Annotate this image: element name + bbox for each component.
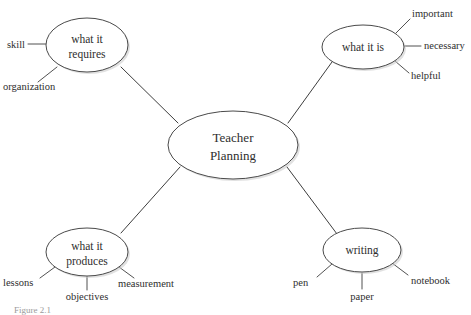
leaf-label-measurement: measurement	[118, 278, 174, 289]
node-label-what-it-is-line-1: what it is	[342, 41, 385, 53]
node-outline-what-it-produces	[46, 228, 128, 276]
leaf-label-necessary: necessary	[424, 40, 466, 51]
connector-center-to-what-it-produces	[121, 167, 180, 233]
connector-center-to-what-it-is	[288, 62, 332, 123]
node-what-it-requires[interactable]: what it requires	[46, 18, 130, 74]
connector-leaf-lessons	[40, 267, 55, 278]
leaf-label-paper: paper	[350, 291, 374, 302]
node-outline-center	[168, 111, 298, 179]
connector-center-to-what-it-requires	[121, 67, 178, 123]
leaf-label-helpful: helpful	[411, 70, 441, 81]
node-writing[interactable]: writing	[323, 228, 403, 274]
node-teacher-planning[interactable]: Teacher Planning	[168, 111, 300, 181]
figure-caption: Figure 2.1	[14, 305, 51, 315]
node-label-what-it-produces-line-1: what it	[71, 240, 103, 252]
leaf-label-important: important	[412, 8, 453, 19]
leaf-label-objectives: objectives	[66, 291, 109, 302]
center-label-line-2: Planning	[210, 148, 257, 163]
node-label-what-it-requires-line-1: what it	[71, 33, 103, 45]
leaf-label-pen: pen	[293, 277, 309, 288]
leaf-label-skill: skill	[7, 39, 25, 50]
center-label-line-1: Teacher	[213, 130, 255, 145]
connector-leaf-organization	[38, 67, 57, 82]
node-what-it-produces[interactable]: what it produces	[46, 228, 130, 278]
leaf-label-organization: organization	[3, 81, 56, 92]
node-what-it-is[interactable]: what it is	[322, 25, 406, 71]
connector-leaf-pen	[317, 264, 332, 277]
node-label-what-it-produces-line-2: produces	[66, 255, 108, 268]
mind-map-diagram: Teacher Planning what it requires skill …	[0, 0, 471, 315]
connector-leaf-important	[396, 19, 410, 33]
leaf-label-notebook: notebook	[411, 275, 451, 286]
leaf-label-lessons: lessons	[3, 277, 33, 288]
connector-center-to-writing	[287, 167, 337, 234]
mind-map-canvas: Teacher Planning what it requires skill …	[0, 0, 471, 315]
node-label-what-it-requires-line-2: requires	[68, 48, 106, 61]
node-outline-what-it-requires	[46, 18, 128, 72]
node-label-writing-line-1: writing	[345, 244, 378, 257]
connector-leaf-helpful	[395, 61, 409, 73]
